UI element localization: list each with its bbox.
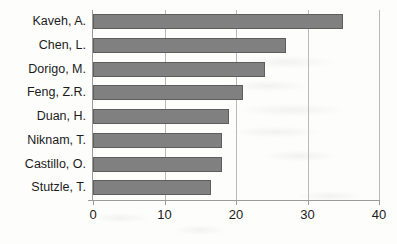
x-axis-tick-label: 0 bbox=[73, 207, 113, 223]
gridline-x-40 bbox=[379, 10, 380, 200]
bar[interactable] bbox=[93, 109, 229, 124]
category-label: Dorigo, M. bbox=[28, 61, 86, 77]
category-label: Kaveh, A. bbox=[32, 13, 86, 29]
bar[interactable] bbox=[93, 157, 222, 172]
bar[interactable] bbox=[93, 14, 343, 29]
x-axis-tick-0 bbox=[93, 200, 94, 205]
bar-row: Duan, H. bbox=[93, 105, 379, 129]
x-axis-tick-40 bbox=[379, 200, 380, 205]
x-axis-tick-10 bbox=[165, 200, 166, 205]
category-label: Duan, H. bbox=[37, 108, 86, 124]
category-label: Chen, L. bbox=[39, 37, 86, 53]
bar-row: Kaveh, A. bbox=[93, 10, 379, 34]
bar[interactable] bbox=[93, 180, 211, 195]
x-axis-line bbox=[88, 200, 379, 201]
category-label: Castillo, O. bbox=[25, 156, 86, 172]
bar[interactable] bbox=[93, 133, 222, 148]
bar-row: Castillo, O. bbox=[93, 153, 379, 177]
category-label: Feng, Z.R. bbox=[27, 84, 86, 100]
category-label: Stutzle, T. bbox=[31, 179, 86, 195]
bar-row: Chen, L. bbox=[93, 34, 379, 58]
x-axis-tick-30 bbox=[308, 200, 309, 205]
x-axis-tick-20 bbox=[236, 200, 237, 205]
plot-area: Kaveh, A.Chen, L.Dorigo, M.Feng, Z.R.Dua… bbox=[93, 10, 379, 200]
x-axis-tick-label: 10 bbox=[145, 207, 185, 223]
x-axis-tick-label: 30 bbox=[288, 207, 328, 223]
bar-row: Stutzle, T. bbox=[93, 176, 379, 200]
category-label: Niknam, T. bbox=[27, 132, 86, 148]
bar[interactable] bbox=[93, 85, 243, 100]
x-axis-tick-label: 20 bbox=[216, 207, 256, 223]
bar-row: Dorigo, M. bbox=[93, 58, 379, 82]
bar[interactable] bbox=[93, 38, 286, 53]
x-axis-tick-label: 40 bbox=[359, 207, 397, 223]
bar-row: Niknam, T. bbox=[93, 129, 379, 153]
bar-chart: Kaveh, A.Chen, L.Dorigo, M.Feng, Z.R.Dua… bbox=[0, 0, 397, 244]
bar[interactable] bbox=[93, 62, 265, 77]
bar-row: Feng, Z.R. bbox=[93, 81, 379, 105]
